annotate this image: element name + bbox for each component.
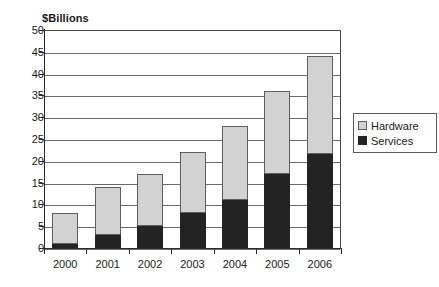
bar-segment-hardware (180, 152, 206, 213)
x-tick-label: 2006 (290, 258, 350, 270)
x-tick-mark (171, 248, 172, 254)
x-tick-mark (44, 248, 45, 254)
x-axis-line (44, 248, 342, 249)
legend-item-hardware: Hardware (358, 118, 433, 133)
bar-group (52, 30, 78, 248)
bar-group (95, 30, 121, 248)
y-axis-title: $Billions (42, 12, 89, 24)
x-tick-mark (256, 248, 257, 254)
bar-segment-hardware (52, 213, 78, 244)
services-swatch-icon (358, 136, 367, 145)
chart-legend: Hardware Services (353, 113, 437, 153)
bar-segment-hardware (95, 187, 121, 235)
bar-segment-hardware (137, 174, 163, 226)
legend-label-hardware: Hardware (371, 120, 419, 132)
bar-group (264, 30, 290, 248)
bar-segment-hardware (307, 56, 333, 154)
legend-label-services: Services (371, 135, 413, 147)
legend-item-services: Services (358, 133, 433, 148)
bar-group (222, 30, 248, 248)
bar-segment-services (222, 200, 248, 248)
bar-group (137, 30, 163, 248)
gridline (44, 249, 340, 250)
x-tick-mark (86, 248, 87, 254)
stacked-bar-chart: $Billions 05101520253035404550 200020012… (0, 0, 439, 287)
bar-segment-services (264, 174, 290, 248)
x-tick-mark (299, 248, 300, 254)
bar-segment-services (95, 235, 121, 248)
bar-group (180, 30, 206, 248)
bar-segment-services (52, 244, 78, 248)
bar-segment-hardware (264, 91, 290, 174)
bar-segment-hardware (222, 126, 248, 200)
hardware-swatch-icon (358, 121, 367, 130)
bars-layer (44, 30, 341, 248)
bar-group (307, 30, 333, 248)
x-tick-mark (129, 248, 130, 254)
y-axis-ticks: 05101520253035404550 (0, 0, 44, 287)
bar-segment-services (180, 213, 206, 248)
x-tick-mark (214, 248, 215, 254)
bar-segment-services (307, 154, 333, 248)
bar-segment-services (137, 226, 163, 248)
x-tick-mark (341, 248, 342, 254)
